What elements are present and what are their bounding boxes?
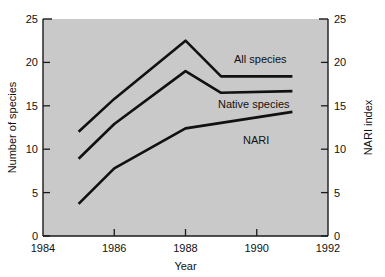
right-tick-label-20: 20 bbox=[334, 56, 346, 68]
y2-axis-title: NARI index bbox=[362, 99, 374, 155]
right-tick-label-25: 25 bbox=[334, 13, 346, 25]
line-chart: 0 5 10 15 20 25 0 5 10 15 20 25 1984 198… bbox=[0, 0, 385, 277]
left-tick-label-10: 10 bbox=[26, 143, 38, 155]
right-tick-label-15: 15 bbox=[334, 100, 346, 112]
x-tick-label-1988: 1988 bbox=[173, 242, 197, 254]
series-annotation-all-species: All species bbox=[234, 53, 287, 65]
x-tick-label-1986: 1986 bbox=[102, 242, 126, 254]
right-tick-label-0: 0 bbox=[334, 230, 340, 242]
left-tick-label-5: 5 bbox=[32, 187, 38, 199]
left-tick-label-25: 25 bbox=[26, 13, 38, 25]
left-tick-label-0: 0 bbox=[32, 230, 38, 242]
chart-figure: 0 5 10 15 20 25 0 5 10 15 20 25 1984 198… bbox=[0, 0, 385, 277]
left-tick-label-20: 20 bbox=[26, 56, 38, 68]
series-annotation-native-species: Native species bbox=[218, 98, 290, 110]
left-tick-label-15: 15 bbox=[26, 100, 38, 112]
right-tick-label-10: 10 bbox=[334, 143, 346, 155]
y-axis-title: Number of species bbox=[6, 81, 18, 173]
series-annotation-nari: NARI bbox=[243, 134, 269, 146]
x-tick-label-1984: 1984 bbox=[31, 242, 55, 254]
x-tick-label-1990: 1990 bbox=[245, 242, 269, 254]
right-tick-label-5: 5 bbox=[334, 187, 340, 199]
x-tick-label-1992: 1992 bbox=[316, 242, 340, 254]
x-axis-title: Year bbox=[174, 260, 197, 272]
